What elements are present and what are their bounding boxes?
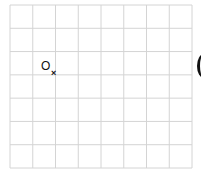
square-grid — [0, 0, 201, 175]
point-label-o: O — [41, 60, 50, 72]
point-marker-cross-icon: × — [51, 69, 56, 78]
